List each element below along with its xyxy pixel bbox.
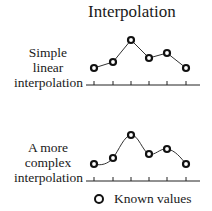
known-points-complex bbox=[91, 132, 189, 167]
legend-label: Known values bbox=[114, 191, 192, 207]
legend: Known values bbox=[94, 191, 192, 207]
known-value-marker-icon bbox=[94, 194, 104, 204]
axis-linear bbox=[86, 81, 200, 85]
known-points-linear bbox=[91, 37, 189, 71]
interpolation-diagram bbox=[0, 0, 212, 211]
smooth-curve bbox=[94, 135, 186, 165]
linear-curve bbox=[94, 40, 186, 68]
axis-complex bbox=[86, 177, 200, 181]
